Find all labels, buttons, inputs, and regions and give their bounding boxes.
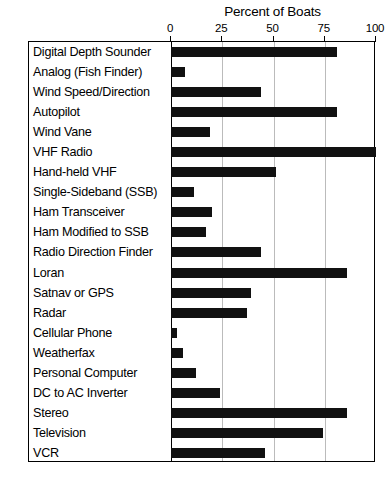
bar-row: Wind Speed/Direction	[29, 82, 374, 102]
category-label: Television	[33, 427, 86, 440]
bar	[171, 288, 251, 298]
bar-rows: Digital Depth SounderAnalog (Fish Finder…	[29, 42, 374, 461]
category-label: DC to AC Inverter	[33, 387, 127, 400]
bar-row: Digital Depth Sounder	[29, 42, 374, 62]
chart-title: Percent of Boats	[170, 4, 375, 19]
category-label: Weatherfax	[33, 346, 95, 359]
category-label: Wind Speed/Direction	[33, 86, 150, 99]
footer-strip	[0, 466, 391, 480]
x-tick-label: 50	[266, 22, 278, 34]
category-label: VCR	[33, 447, 59, 460]
bar	[171, 448, 265, 458]
bar-row: Cellular Phone	[29, 323, 374, 343]
bar-row: DC to AC Inverter	[29, 383, 374, 403]
category-label: Radar	[33, 306, 66, 319]
bar	[171, 127, 210, 137]
x-tick-label: 25	[215, 22, 227, 34]
bar-chart: Percent of Boats 0255075100 Digital Dept…	[0, 0, 391, 480]
x-tick-label: 75	[318, 22, 330, 34]
x-tick-label: 0	[167, 22, 173, 34]
bar	[171, 247, 261, 257]
category-label: Satnav or GPS	[33, 286, 114, 299]
bar-row: VCR	[29, 443, 374, 463]
category-label: Autopilot	[33, 106, 80, 119]
bar	[171, 368, 196, 378]
bar-row: Stereo	[29, 403, 374, 423]
bar-row: Radar	[29, 303, 374, 323]
category-label: Single-Sideband (SSB)	[33, 186, 157, 199]
x-tick-label: 100	[366, 22, 385, 34]
category-label: Hand-held VHF	[33, 166, 117, 179]
bar	[171, 388, 220, 398]
category-label: Analog (Fish Finder)	[33, 66, 142, 79]
bar	[171, 167, 276, 177]
category-label: Stereo	[33, 407, 69, 420]
bar-row: Wind Vane	[29, 122, 374, 142]
bar-row: Personal Computer	[29, 363, 374, 383]
category-label: Cellular Phone	[33, 326, 112, 339]
category-label: Digital Depth Sounder	[33, 46, 151, 59]
bar-row: Weatherfax	[29, 343, 374, 363]
plot-area: Digital Depth SounderAnalog (Fish Finder…	[28, 41, 375, 462]
x-tick-mark	[375, 36, 376, 42]
bar	[171, 107, 337, 117]
bar	[171, 147, 376, 157]
bar-row: Hand-held VHF	[29, 162, 374, 182]
bar-row: Radio Direction Finder	[29, 242, 374, 262]
bar	[171, 268, 347, 278]
bar	[171, 328, 177, 338]
bar	[171, 227, 206, 237]
bar	[171, 428, 323, 438]
bar	[171, 187, 194, 197]
category-label: Ham Transceiver	[33, 206, 124, 219]
category-label: Wind Vane	[33, 126, 91, 139]
category-label: Personal Computer	[33, 366, 137, 379]
category-label: Loran	[33, 266, 64, 279]
bar-row: Television	[29, 423, 374, 443]
bar-row: Autopilot	[29, 102, 374, 122]
bar-row: Ham Transceiver	[29, 202, 374, 222]
category-label: Ham Modified to SSB	[33, 226, 149, 239]
bar	[171, 348, 183, 358]
bar	[171, 47, 337, 57]
bar-row: Analog (Fish Finder)	[29, 62, 374, 82]
bar	[171, 207, 212, 217]
category-label: VHF Radio	[33, 146, 92, 159]
bar-row: Ham Modified to SSB	[29, 222, 374, 242]
bar-row: Single-Sideband (SSB)	[29, 182, 374, 202]
bar	[171, 308, 247, 318]
bar-row: Loran	[29, 263, 374, 283]
bar-row: VHF Radio	[29, 142, 374, 162]
bar	[171, 67, 185, 77]
category-label: Radio Direction Finder	[33, 246, 153, 259]
bar	[171, 408, 347, 418]
bar	[171, 87, 261, 97]
bar-row: Satnav or GPS	[29, 283, 374, 303]
